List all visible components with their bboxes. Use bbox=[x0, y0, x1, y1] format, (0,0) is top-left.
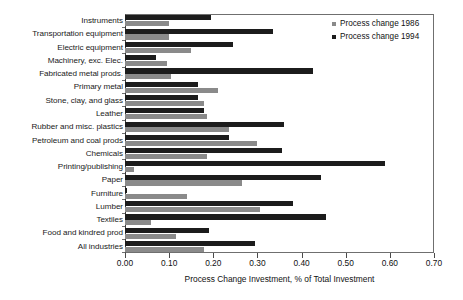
category-label: Printing/publishing bbox=[5, 160, 123, 173]
chart-row: Stone, clay, and glass bbox=[0, 94, 463, 107]
x-axis-tick-label: 0.20 bbox=[191, 257, 235, 269]
bar-process-change-1986 bbox=[125, 88, 218, 93]
chart-row: Chemicals bbox=[0, 147, 463, 160]
bar-process-change-1994 bbox=[125, 135, 229, 140]
chart-row: Petroleum and coal prods bbox=[0, 134, 463, 147]
bar-process-change-1994 bbox=[125, 228, 209, 233]
chart-row: Food and kindred prod bbox=[0, 226, 463, 239]
chart-row: Paper bbox=[0, 173, 463, 186]
x-axis-title: Process Change Investment, % of Total In… bbox=[125, 274, 434, 284]
bar-group bbox=[125, 200, 434, 213]
bar-process-change-1986 bbox=[125, 154, 207, 159]
bar-process-change-1994 bbox=[125, 161, 385, 166]
bar-process-change-1986 bbox=[125, 194, 187, 199]
bar-process-change-1994 bbox=[125, 108, 204, 113]
legend-label: Process change 1986 bbox=[340, 18, 419, 30]
chart-row: Fabricated metal prods. bbox=[0, 67, 463, 80]
category-label: Petroleum and coal prods bbox=[5, 134, 123, 147]
category-label: Chemicals bbox=[5, 147, 123, 160]
chart-row: Leather bbox=[0, 107, 463, 120]
category-label: Textiles bbox=[5, 213, 123, 226]
category-label: Primary metal bbox=[5, 80, 123, 93]
chart-rows: InstrumentsTransportation equipmentElect… bbox=[0, 14, 463, 253]
bar-process-change-1994 bbox=[125, 82, 198, 87]
category-label: Fabricated metal prods. bbox=[5, 67, 123, 80]
bar-group bbox=[125, 213, 434, 226]
bar-process-change-1994 bbox=[125, 201, 293, 206]
bar-process-change-1994 bbox=[125, 95, 198, 100]
legend-swatch-icon bbox=[332, 35, 336, 39]
bar-group bbox=[125, 173, 434, 186]
chart-row: Machinery, exc. Elec. bbox=[0, 54, 463, 67]
bar-process-change-1986 bbox=[125, 34, 169, 39]
bar-group bbox=[125, 147, 434, 160]
category-label: Instruments bbox=[5, 14, 123, 27]
legend-label: Process change 1994 bbox=[340, 31, 419, 43]
category-label: Food and kindred prod bbox=[5, 226, 123, 239]
bar-process-change-1994 bbox=[125, 15, 211, 20]
bar-process-change-1986 bbox=[125, 74, 171, 79]
chart-row: Printing/publishing bbox=[0, 160, 463, 173]
bar-group bbox=[125, 67, 434, 80]
chart-row: Primary metal bbox=[0, 80, 463, 93]
x-axis-tick-label: 0.30 bbox=[235, 257, 279, 269]
bar-process-change-1986 bbox=[125, 167, 134, 172]
chart-row: Furniture bbox=[0, 187, 463, 200]
x-axis-tick-label: 0.60 bbox=[368, 257, 412, 269]
category-label: Rubber and misc. plastics bbox=[5, 120, 123, 133]
bar-process-change-1986 bbox=[125, 220, 151, 225]
bar-process-change-1986 bbox=[125, 207, 260, 212]
bar-group bbox=[125, 120, 434, 133]
category-label: Lumber bbox=[5, 200, 123, 213]
category-label: Machinery, exc. Elec. bbox=[5, 54, 123, 67]
chart-row: Lumber bbox=[0, 200, 463, 213]
bar-group bbox=[125, 94, 434, 107]
bar-process-change-1994 bbox=[125, 122, 284, 127]
bar-process-change-1994 bbox=[125, 42, 233, 47]
bar-chart: InstrumentsTransportation equipmentElect… bbox=[0, 0, 463, 300]
bar-group bbox=[125, 160, 434, 173]
x-axis-tick-label: 0.10 bbox=[147, 257, 191, 269]
category-label: All industries bbox=[5, 240, 123, 253]
category-label: Stone, clay, and glass bbox=[5, 94, 123, 107]
bar-process-change-1986 bbox=[125, 48, 191, 53]
legend: Process change 1986Process change 1994 bbox=[329, 16, 433, 47]
bar-process-change-1994 bbox=[125, 29, 273, 34]
legend-swatch-icon bbox=[332, 22, 336, 26]
chart-row: Rubber and misc. plastics bbox=[0, 120, 463, 133]
bar-group bbox=[125, 80, 434, 93]
bar-process-change-1986 bbox=[125, 127, 229, 132]
bar-process-change-1994 bbox=[125, 148, 282, 153]
bar-process-change-1986 bbox=[125, 141, 257, 146]
category-label: Leather bbox=[5, 107, 123, 120]
bar-process-change-1986 bbox=[125, 61, 167, 66]
category-label: Electric equipment bbox=[5, 41, 123, 54]
chart-row: Textiles bbox=[0, 213, 463, 226]
bar-group bbox=[125, 54, 434, 67]
bar-process-change-1994 bbox=[125, 188, 127, 193]
bar-process-change-1986 bbox=[125, 234, 176, 239]
x-axis-tick-label: 0.00 bbox=[103, 257, 147, 269]
bar-process-change-1986 bbox=[125, 247, 204, 252]
category-label: Furniture bbox=[5, 187, 123, 200]
bar-process-change-1994 bbox=[125, 241, 255, 246]
bar-process-change-1994 bbox=[125, 214, 326, 219]
bar-process-change-1994 bbox=[125, 68, 313, 73]
bar-process-change-1986 bbox=[125, 180, 242, 185]
category-label: Paper bbox=[5, 173, 123, 186]
bar-process-change-1994 bbox=[125, 55, 156, 60]
bar-group bbox=[125, 134, 434, 147]
x-axis-tick-label: 0.40 bbox=[280, 257, 324, 269]
x-axis-tick-label: 0.70 bbox=[412, 257, 456, 269]
legend-item: Process change 1994 bbox=[332, 31, 431, 43]
x-axis-tick-labels: 0.000.100.200.300.400.500.600.70 bbox=[125, 257, 434, 271]
category-label: Transportation equipment bbox=[5, 27, 123, 40]
bar-group bbox=[125, 107, 434, 120]
bar-process-change-1986 bbox=[125, 101, 204, 106]
bar-group bbox=[125, 226, 434, 239]
bar-group bbox=[125, 187, 434, 200]
bar-group bbox=[125, 240, 434, 253]
bar-process-change-1994 bbox=[125, 175, 321, 180]
legend-item: Process change 1986 bbox=[332, 18, 431, 30]
bar-process-change-1986 bbox=[125, 114, 207, 119]
